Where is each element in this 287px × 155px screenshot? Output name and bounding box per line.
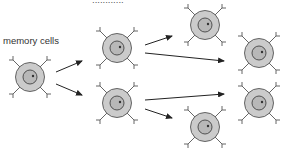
arrow-gen1-bottom-to-gen2-c [145, 94, 224, 100]
arrow-memory-cell-to-gen1-bottom [56, 84, 82, 95]
cell-gen1-bottom [96, 82, 138, 124]
cell-gen2-b [238, 32, 280, 74]
arrows-group [56, 36, 224, 118]
diagram-canvas [0, 0, 287, 155]
cells-group [9, 4, 280, 148]
cell-memory-cell [9, 56, 51, 98]
arrow-gen1-top-to-gen2-b [145, 53, 224, 61]
cell-gen1-top [96, 27, 138, 69]
cell-gen2-a [184, 4, 226, 46]
cell-gen2-d [184, 106, 226, 148]
arrow-gen1-top-to-gen2-a [145, 36, 172, 45]
arrow-memory-cell-to-gen1-top [56, 61, 82, 72]
memory-cell-proliferation-diagram: ............ memory cells [0, 0, 287, 155]
arrow-gen1-bottom-to-gen2-d [145, 109, 172, 118]
cell-gen2-c [238, 82, 280, 124]
